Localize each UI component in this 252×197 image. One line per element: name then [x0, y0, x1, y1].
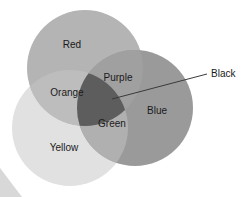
venn-diagram-container: Red Blue Yellow Purple Orange Green Blac… — [0, 0, 252, 197]
venn-label-blue: Blue — [147, 105, 167, 116]
venn-diagram-canvas: Red Blue Yellow Purple Orange Green Blac… — [0, 0, 252, 197]
venn-label-yellow: Yellow — [50, 142, 79, 153]
venn-label-green: Green — [98, 118, 126, 129]
venn-label-purple: Purple — [104, 72, 133, 83]
venn-label-red: Red — [63, 39, 81, 50]
venn-label-orange: Orange — [50, 87, 84, 98]
venn-label-black: Black — [211, 68, 236, 79]
corner-scan-artifact — [0, 168, 22, 197]
